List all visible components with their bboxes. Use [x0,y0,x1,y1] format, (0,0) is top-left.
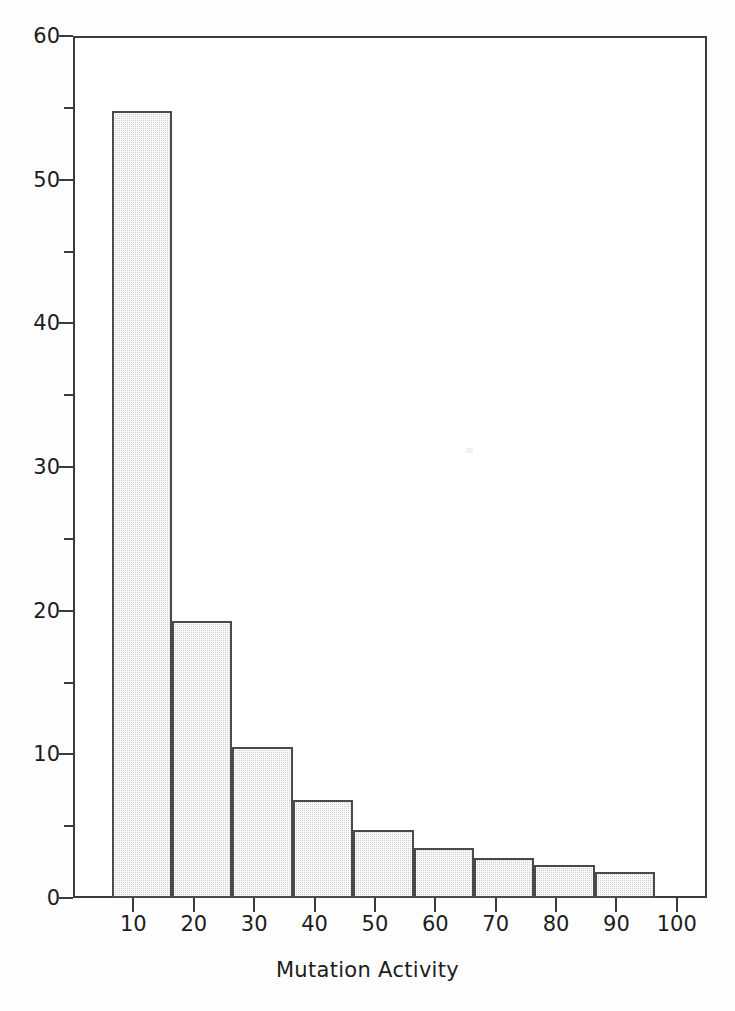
y-axis-tick-label: 10 [14,742,60,766]
x-axis-tick [193,898,195,912]
x-axis-tick [253,898,255,912]
y-axis-tick-labels: 0102030405060 [0,36,735,898]
x-axis-tick [434,898,436,912]
y-axis-tick-label: 20 [14,599,60,623]
x-axis-tick [314,898,316,912]
x-axis-tick [374,898,376,912]
y-axis-tick-label: 40 [14,311,60,335]
x-axis-tick [495,898,497,912]
y-axis-tick-label: 30 [14,455,60,479]
x-axis-tick [615,898,617,912]
x-axis-tick-label: 100 [642,912,712,936]
x-axis-tick [676,898,678,912]
x-axis-title: Mutation Activity [0,958,735,982]
x-axis-tick [132,898,134,912]
y-axis-tick-label: 50 [14,168,60,192]
bar-chart-figure: 0102030405060 102030405060708090100 Muta… [0,0,735,1011]
y-axis-tick-label: 60 [14,24,60,48]
y-axis-tick-label: 0 [14,886,60,910]
x-axis-tick [555,898,557,912]
